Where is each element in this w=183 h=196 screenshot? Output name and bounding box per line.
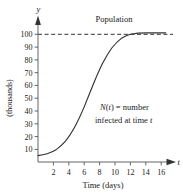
x-tick-label-8: 8: [98, 168, 102, 177]
y-tick-label-40: 40: [25, 107, 33, 116]
y-tick-label-80: 80: [25, 56, 33, 65]
x-tick-label-16: 16: [157, 168, 165, 177]
x-axis-caption: Time (days): [82, 180, 123, 190]
annotation-line-1: N(t) = number: [99, 102, 149, 112]
y-tick-label-10: 10: [25, 145, 33, 154]
x-tick-label-12: 12: [126, 168, 134, 177]
x-tick-label-2: 2: [51, 168, 55, 177]
annotation-equals-number: = number: [114, 102, 149, 112]
annotation-infected-text: infected at time: [95, 115, 150, 125]
annotation-line-2: infected at time t: [95, 115, 153, 125]
y-tick-label-70: 70: [25, 69, 33, 78]
figure-container: 100 90 80 70 60 50 40 30 20 10 2 4 6 8 1…: [0, 0, 183, 196]
y-tick-label-60: 60: [25, 81, 33, 90]
y-tick-label-90: 90: [25, 43, 33, 52]
x-tick-label-14: 14: [142, 168, 150, 177]
x-tick-label-4: 4: [67, 168, 71, 177]
y-axis-caption: (thousands): [5, 79, 14, 117]
y-axis-name-label: y: [36, 4, 41, 14]
x-tick-label-10: 10: [111, 168, 119, 177]
y-tick-label-30: 30: [25, 120, 33, 129]
y-tick-label-20: 20: [25, 133, 33, 142]
x-tick-label-6: 6: [82, 168, 86, 177]
asymptote-title-label: Population: [96, 14, 134, 24]
y-tick-label-50: 50: [25, 94, 33, 103]
logistic-growth-chart: 100 90 80 70 60 50 40 30 20 10 2 4 6 8 1…: [0, 0, 183, 196]
y-tick-label-100: 100: [21, 30, 33, 39]
